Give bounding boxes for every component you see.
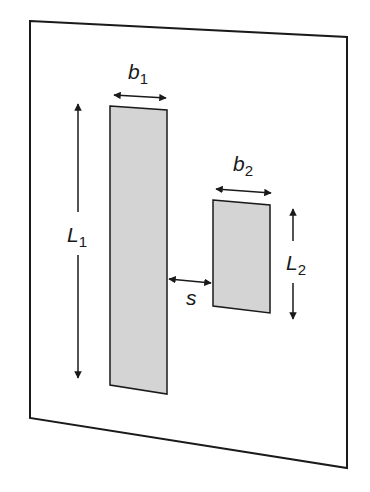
plate-1 — [110, 106, 167, 394]
diagram-svg: b1 b2 L1 L2 s — [0, 0, 370, 492]
diagram-canvas: b1 b2 L1 L2 s — [0, 0, 370, 492]
plate-2 — [213, 200, 270, 313]
label-s: s — [186, 286, 197, 309]
